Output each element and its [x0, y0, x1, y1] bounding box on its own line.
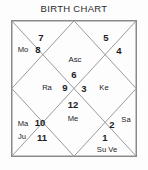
kundali-chart: 7 Mo 8 5 4 Asc 6 Ra 9 3 Ke 12 Me Ma 10 J…	[11, 20, 137, 157]
page-title: BIRTH CHART	[0, 3, 148, 14]
house-12-number: 12	[68, 100, 79, 110]
house-1-planets: Su Ve	[97, 146, 117, 154]
house-8-number: 8	[35, 45, 40, 55]
house-9-number: 9	[62, 83, 67, 93]
house-3-planets: Ke	[99, 84, 108, 92]
house-6-number: 6	[71, 70, 76, 80]
house-2-number: 2	[109, 120, 114, 130]
house-2-planets: Sa	[121, 116, 130, 124]
house-10-number: 10	[35, 118, 46, 128]
house-11-planets: Ju	[18, 133, 26, 141]
house-3-number: 3	[81, 84, 86, 94]
chart-grid-svg	[11, 20, 137, 157]
house-1-number: 1	[102, 133, 107, 143]
house-8-planets: Mo	[18, 46, 29, 54]
house-6-planets: Asc	[69, 56, 82, 64]
house-7-number: 7	[38, 33, 43, 43]
house-12-planets: Me	[68, 115, 79, 123]
birth-chart-page: BIRTH CHART 7 Mo 8 5 4 Asc 6 Ra 9 3 Ke 1	[0, 0, 148, 170]
house-9-planets: Ra	[42, 84, 52, 92]
house-5-number: 5	[103, 33, 108, 43]
house-4-number: 4	[116, 46, 121, 56]
house-11-number: 11	[37, 133, 47, 143]
house-10-planets: Ma	[18, 120, 29, 128]
